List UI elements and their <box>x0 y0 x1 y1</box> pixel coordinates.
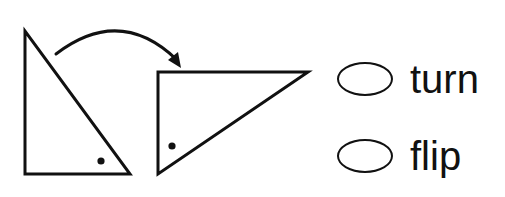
transformed-dot-marker <box>168 142 175 149</box>
curved-arrow-icon <box>56 31 181 68</box>
option-turn[interactable]: turn <box>337 59 479 99</box>
original-dot-marker <box>97 157 104 164</box>
original-triangle <box>25 31 130 174</box>
option-flip[interactable]: flip <box>337 136 461 176</box>
option-flip-label: flip <box>410 136 461 176</box>
option-turn-label: turn <box>410 59 479 99</box>
transformed-triangle <box>158 72 308 174</box>
answer-bubble-turn[interactable] <box>337 62 393 96</box>
answer-bubble-flip[interactable] <box>337 139 393 173</box>
